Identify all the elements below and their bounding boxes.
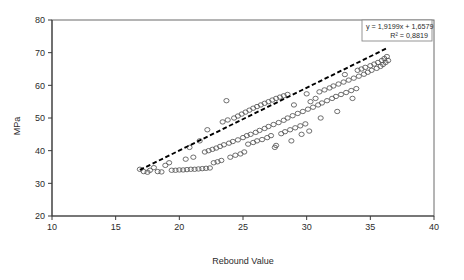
x-axis-title: Rebound Value	[212, 256, 273, 266]
x-tick-label: 15	[111, 222, 121, 232]
chart-canvas: 20304050607080 10152025303540 MPa Reboun…	[0, 0, 464, 280]
y-tick-label: 30	[35, 179, 45, 189]
x-tick-label: 25	[238, 222, 248, 232]
scatter-chart: 20304050607080 10152025303540 MPa Reboun…	[0, 0, 464, 280]
r-squared-text: R² = 0,8819	[390, 31, 428, 40]
x-tick-label: 20	[174, 222, 184, 232]
regression-equation-text: y = 1,9199x + 1,6579	[366, 22, 434, 31]
y-tick-label: 70	[35, 48, 45, 58]
y-axis-ticks: 20304050607080	[35, 15, 52, 221]
plot-area-frame	[52, 20, 434, 216]
y-axis-title: MPa	[12, 117, 22, 136]
x-tick-label: 40	[429, 222, 439, 232]
y-tick-label: 80	[35, 15, 45, 25]
y-tick-label: 40	[35, 146, 45, 156]
y-tick-label: 60	[35, 81, 45, 91]
x-tick-label: 30	[302, 222, 312, 232]
equation-annotation-box: y = 1,9199x + 1,6579 R² = 0,8819	[362, 20, 434, 41]
x-axis-ticks: 10152025303540	[47, 216, 439, 232]
y-tick-label: 20	[35, 211, 45, 221]
x-tick-label: 35	[365, 222, 375, 232]
x-tick-label: 10	[47, 222, 57, 232]
y-tick-label: 50	[35, 113, 45, 123]
